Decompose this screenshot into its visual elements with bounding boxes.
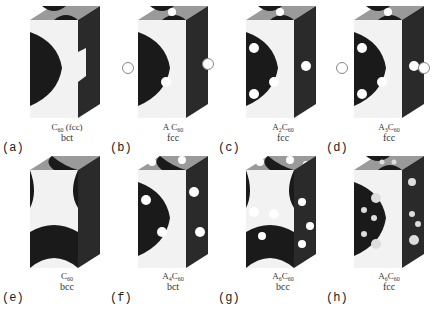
cube-structure-icon (240, 152, 320, 270)
panel-letter: (f) (110, 291, 132, 305)
panel-d: A3C60 fcc (d) (326, 0, 431, 155)
lattice-type: bct (138, 281, 208, 292)
lattice-type: bcc (248, 281, 318, 292)
panel-letter: (g) (218, 291, 240, 305)
lattice-type: bct (32, 132, 102, 143)
panel-b: A C60 fcc (b) (110, 0, 215, 155)
lattice-type: fcc (354, 132, 424, 143)
cube-structure-icon (240, 2, 320, 120)
panel-g: A6C60 bcc (g) (218, 150, 323, 305)
cube-structure-icon (132, 2, 212, 120)
cube-structure-icon (24, 2, 104, 120)
lattice-type: fcc (248, 132, 318, 143)
panel-c: A2C60 fcc (c) (218, 0, 323, 155)
panel-h: A6C60 fcc (h) (326, 150, 431, 305)
panel-a: C60 (fcc) bct (a) (2, 0, 107, 155)
lattice-type: fcc (354, 281, 424, 292)
dopant-atom-icon (202, 58, 214, 70)
cube-structure-icon (24, 152, 104, 270)
panel-f: A4C60 bct (f) (110, 150, 215, 305)
cube-structure-icon (132, 152, 212, 270)
cube-structure-icon (348, 2, 428, 120)
dopant-atom-icon (418, 62, 430, 74)
lattice-type: fcc (138, 132, 208, 143)
dopant-atom-icon (122, 62, 134, 74)
cube-structure-icon (348, 152, 428, 270)
panel-e: C60 bcc (e) (2, 150, 107, 305)
lattice-type: bcc (32, 281, 102, 292)
panel-letter: (h) (326, 291, 348, 305)
panel-letter: (e) (2, 291, 24, 305)
dopant-atom-icon (336, 62, 348, 74)
